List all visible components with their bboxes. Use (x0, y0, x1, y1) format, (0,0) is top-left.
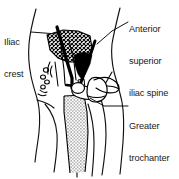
anatomy-figure: Iliac crest Anterior superior iliac spin… (0, 0, 179, 179)
label-iliac-crest-line2: crest (4, 69, 23, 80)
label-iliac-crest-line1: Iliac (4, 37, 23, 48)
femur-bone (64, 95, 88, 173)
label-asis-line3: iliac spine (129, 88, 168, 99)
label-asis-line1: Anterior (129, 24, 168, 35)
label-greater-trochanter: Greater trochanter (129, 100, 169, 179)
label-greater-trochanter-line1: Greater (129, 121, 169, 132)
label-iliac-crest: Iliac crest (4, 16, 23, 101)
label-greater-trochanter-line2: trochanter (129, 153, 169, 164)
ilium-inferior-fragments (38, 62, 58, 96)
label-asis-line2: superior (129, 56, 168, 67)
